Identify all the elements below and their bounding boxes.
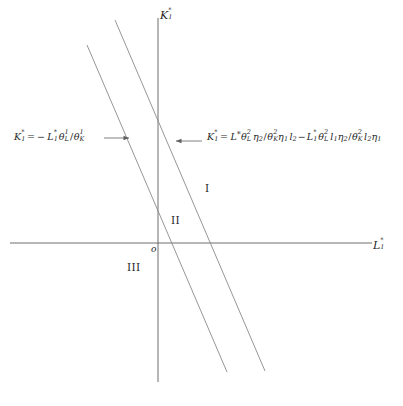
eq-right-lhs-cluster: *1	[214, 130, 219, 140]
eq-right-t2-L-cluster: *1	[313, 130, 318, 140]
eq-left-theta-num-cluster: 1L	[65, 130, 70, 140]
horizontal-axis-label-base: L	[373, 239, 380, 252]
eq-right-t1-theta2-sub: K	[273, 136, 278, 143]
eq-right-lhs-base: K	[207, 131, 214, 142]
eq-left-theta-den-sub: K	[80, 136, 85, 143]
eq-left-theta-num-sub: L	[65, 136, 69, 143]
eq-left-lhs-base: K	[14, 131, 21, 142]
horizontal-axis-label-cluster: *1	[380, 238, 386, 249]
eq-right-t2-eta2-sub: 1	[377, 135, 381, 143]
origin-label: o	[151, 245, 156, 254]
eq-right-t2-theta-cluster: 2L	[324, 130, 329, 140]
equation-right-line: K*1=L*θ2Lη2/θ2Kη1l2−L*1θ2Ll1η2/θ2Kl2η1	[207, 130, 381, 141]
region-label-three: III	[127, 262, 140, 273]
eq-right-equals: =	[219, 131, 229, 142]
horizontal-axis-label-sub: 1	[380, 244, 384, 251]
figure-canvas: K*1 L*1 o I II III K*1=−L*1θ1L/θ1K K*1=L…	[0, 0, 403, 406]
eq-right-t2-theta2-cluster: 2K	[358, 130, 363, 140]
eq-left-L-sub: 1	[54, 136, 58, 143]
eq-left-lhs-cluster: *1	[21, 130, 26, 140]
vertical-axis-label: K*1	[160, 8, 174, 21]
vertical-axis-label-cluster: *1	[168, 8, 174, 19]
vertical-axis-label-base: K	[160, 9, 168, 22]
eq-right-minus: −	[297, 131, 307, 142]
eq-left-L-cluster: *1	[54, 130, 59, 140]
eq-left-L-base: L	[46, 131, 54, 142]
region-label-two: II	[171, 215, 180, 226]
eq-right-t1-L: L	[229, 131, 237, 142]
eq-right-t2-theta-sub: L	[324, 136, 328, 143]
eq-left-minus: −	[36, 131, 46, 142]
eq-right-lhs-sub: 1	[214, 136, 218, 143]
region-label-one: I	[205, 183, 209, 194]
eq-left-equals: =	[26, 131, 36, 142]
equation-left-line: K*1=−L*1θ1L/θ1K	[14, 130, 84, 141]
eq-right-t2-L-sub: 1	[313, 136, 317, 143]
arrow-left-annotation	[104, 136, 129, 140]
line-left	[87, 45, 227, 372]
eq-right-t1-theta-sub: L	[247, 136, 251, 143]
line-right	[115, 20, 265, 371]
diagram-svg	[0, 0, 403, 406]
vertical-axis-label-sub: 1	[168, 14, 172, 21]
eq-right-t1-eta: η	[252, 131, 259, 142]
eq-left-lhs-sub: 1	[21, 136, 25, 143]
eq-right-t2-theta2-sub: K	[358, 136, 363, 143]
eq-right-t1-theta-cluster: 2L	[247, 130, 252, 140]
eq-right-t1-theta2-cluster: 2K	[273, 130, 278, 140]
arrow-right-annotation	[176, 139, 202, 143]
horizontal-axis-label: L*1	[373, 238, 386, 251]
eq-left-theta-den-cluster: 1K	[80, 130, 85, 140]
